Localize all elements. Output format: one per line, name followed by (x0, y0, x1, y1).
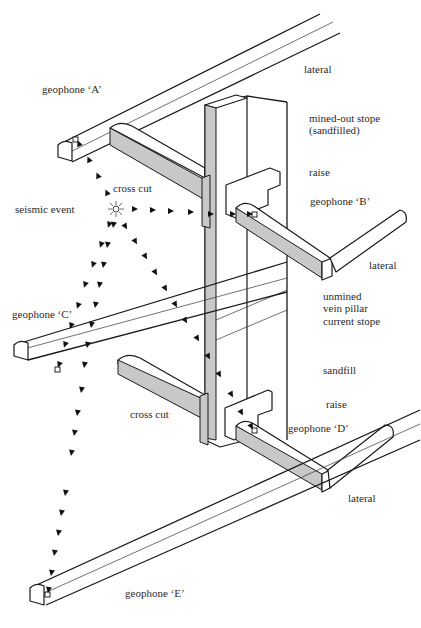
label-geophone-d: geophone ‘D’ (288, 422, 349, 434)
label-sandfilled: (sandfilled) (309, 124, 360, 137)
label-raise-top: raise (309, 166, 330, 178)
label-sandfill: sandfill (323, 364, 356, 376)
label-geophone-c: geophone ‘C’ (12, 308, 72, 320)
geophone-b-marker (252, 212, 257, 217)
label-vein-pillar: vein pillar (323, 302, 368, 314)
geophone-c-marker (55, 367, 60, 372)
label-lateral-mid: lateral (369, 259, 396, 271)
label-geophone-b: geophone ‘B’ (310, 195, 370, 207)
wave-arrows-to-a (75, 139, 111, 196)
seismic-event-icon (108, 201, 124, 217)
wave-arrows-to-e (45, 221, 117, 593)
label-lateral-bottom: lateral (348, 492, 375, 504)
geophone-e-marker (45, 592, 50, 597)
label-mined-out-stope: mined-out stope (309, 112, 380, 124)
label-seismic-event: seismic event (15, 203, 75, 215)
label-raise-bottom: raise (326, 398, 347, 410)
label-cross-cut-bottom: cross cut (130, 408, 169, 420)
wave-arrows-to-c (55, 221, 113, 369)
label-unmined: unmined (323, 290, 362, 302)
label-lateral-top: lateral (304, 63, 331, 75)
geophone-a-marker (73, 137, 78, 142)
stope-block (205, 95, 287, 447)
label-cross-cut-top: cross cut (113, 182, 152, 194)
label-current-stope: current stope (323, 315, 380, 327)
label-geophone-a: geophone ‘A’ (42, 83, 102, 95)
mine-diagram: lateral geophone ‘A’ mined-out stope (sa… (0, 0, 421, 628)
bottom-left-cross-cut (118, 355, 208, 445)
label-geophone-e: geophone ‘E’ (125, 587, 185, 599)
